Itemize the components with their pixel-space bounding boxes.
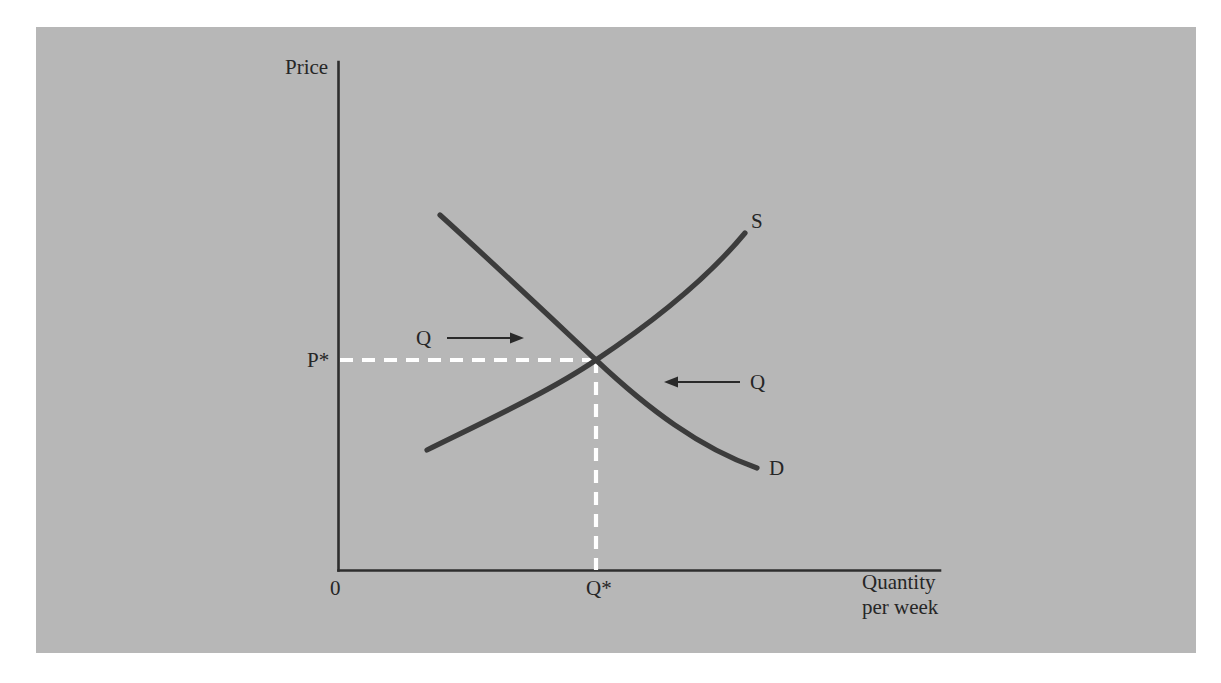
x-axis-label-line1: Quantity <box>862 570 938 595</box>
x-axis-label: Quantity per week <box>862 570 938 620</box>
quantity-right-arrow-head <box>510 333 524 344</box>
supply-curve-label: S <box>751 209 763 234</box>
equilibrium-quantity-label: Q* <box>586 576 612 601</box>
y-axis-label: Price <box>285 55 328 80</box>
equilibrium-price-label: P* <box>307 348 329 373</box>
x-axis-label-line2: per week <box>862 595 938 620</box>
demand-curve <box>440 215 757 468</box>
quantity-right-arrow-label: Q <box>416 326 431 351</box>
origin-label: 0 <box>330 576 341 601</box>
quantity-left-arrow-head <box>664 377 678 388</box>
quantity-left-arrow-label: Q <box>750 370 765 395</box>
supply-curve <box>427 233 745 450</box>
demand-curve-label: D <box>769 456 784 481</box>
